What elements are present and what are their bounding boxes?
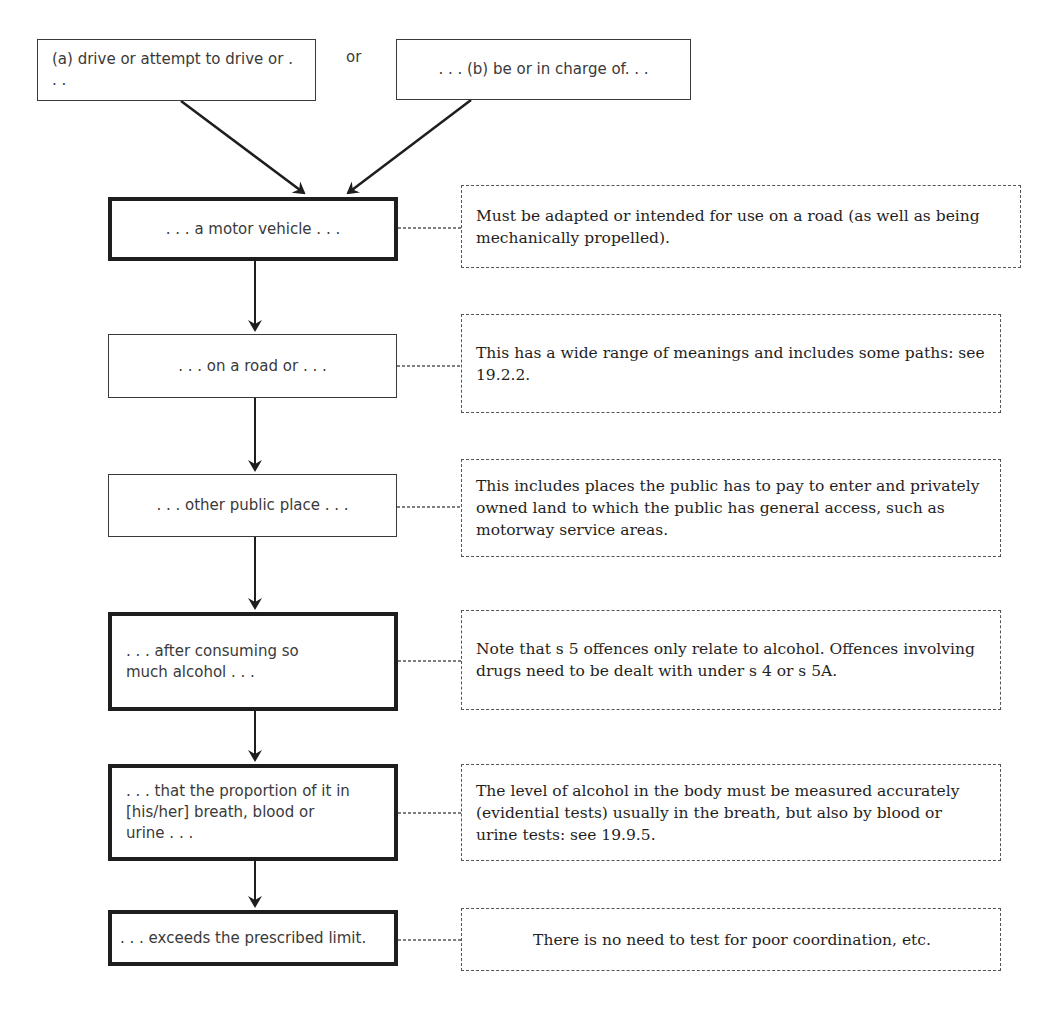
- step-other-public-place: . . . other public place . . .: [108, 474, 397, 537]
- step-label: . . . exceeds the prescribed limit.: [120, 928, 366, 949]
- note-text: Must be adapted or intended for use on a…: [476, 205, 1008, 249]
- note-text: The level of alcohol in the body must be…: [476, 780, 988, 846]
- box-b-in-charge: . . . (b) be or in charge of. . .: [396, 39, 691, 100]
- arrow-b-to-motor-vehicle: [348, 100, 471, 193]
- step-motor-vehicle: . . . a motor vehicle . . .: [108, 197, 398, 261]
- note-on-a-road: This has a wide range of meanings and in…: [461, 314, 1001, 413]
- note-text: This includes places the public has to p…: [476, 475, 988, 541]
- step-after-consuming-alcohol: . . . after consuming so much alcohol . …: [108, 612, 398, 711]
- or-text: or: [346, 48, 361, 66]
- note-text: Note that s 5 offences only relate to al…: [476, 638, 988, 682]
- step-on-a-road: . . . on a road or . . .: [108, 334, 397, 398]
- box-b-label: . . . (b) be or in charge of. . .: [438, 59, 648, 80]
- box-a-drive: (a) drive or attempt to drive or . . .: [37, 39, 316, 101]
- step-exceeds-prescribed-limit: . . . exceeds the prescribed limit.: [108, 910, 398, 966]
- box-a-label: (a) drive or attempt to drive or . . .: [52, 49, 295, 91]
- note-after-consuming-alcohol: Note that s 5 offences only relate to al…: [461, 610, 1001, 710]
- step-label: . . . after consuming so much alcohol . …: [126, 641, 334, 683]
- or-connector-label: or: [346, 48, 361, 66]
- step-label: . . . that the proportion of it in [his/…: [126, 781, 354, 844]
- note-text: This has a wide range of meanings and in…: [476, 342, 988, 386]
- step-label: . . . a motor vehicle . . .: [166, 219, 340, 240]
- arrow-a-to-motor-vehicle: [181, 101, 304, 193]
- note-other-public-place: This includes places the public has to p…: [461, 459, 1001, 557]
- step-label: . . . other public place . . .: [156, 495, 348, 516]
- step-label: . . . on a road or . . .: [178, 356, 326, 377]
- note-text: There is no need to test for poor coordi…: [533, 929, 931, 951]
- note-exceeds-prescribed-limit: There is no need to test for poor coordi…: [461, 908, 1001, 971]
- note-proportion-breath-blood-urine: The level of alcohol in the body must be…: [461, 764, 1001, 861]
- note-motor-vehicle: Must be adapted or intended for use on a…: [461, 185, 1021, 268]
- step-proportion-breath-blood-urine: . . . that the proportion of it in [his/…: [108, 764, 398, 861]
